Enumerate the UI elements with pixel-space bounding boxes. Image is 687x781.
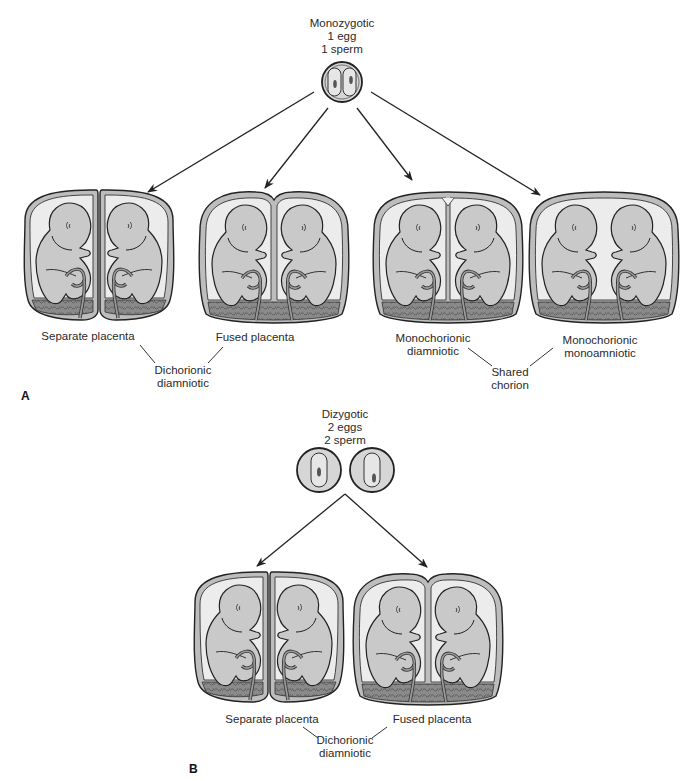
twin-separate-placenta-b — [194, 572, 344, 702]
monozygotic-label: Monozygotic 1 egg 1 sperm — [302, 17, 382, 56]
label-line: chorion — [480, 379, 540, 392]
separate-placenta-label-a: Separate placenta — [18, 330, 158, 343]
label-line: Separate placenta — [212, 713, 332, 726]
label-line: Dizygotic — [305, 408, 385, 421]
arrow-to-fused-placenta-b — [345, 494, 427, 567]
fused-placenta-label-a: Fused placenta — [200, 331, 310, 344]
fused-placenta-label-b: Fused placenta — [377, 713, 487, 726]
panel-a-arrows — [148, 92, 540, 195]
label-line: Fused placenta — [200, 331, 310, 344]
label-line: 2 eggs — [305, 421, 385, 434]
label-line: Separate placenta — [18, 330, 158, 343]
dichorionic-diamniotic-label-a: Dichorionic diamniotic — [148, 364, 218, 390]
sac-left — [24, 190, 98, 320]
sac-right — [100, 190, 174, 320]
monozygotic-zygote — [322, 62, 362, 102]
arrow-to-separate-placenta-b — [257, 494, 345, 566]
arrow-to-separate-placenta — [148, 92, 314, 192]
label-line: Monozygotic — [302, 17, 382, 30]
label-line: Dichorionic — [148, 364, 218, 377]
label-line: 2 sperm — [305, 434, 385, 447]
panel-b-arrows — [257, 494, 427, 567]
dichorionic-diamniotic-label-b: Dichorionic diamniotic — [310, 734, 380, 760]
label-line: 1 sperm — [302, 43, 382, 56]
twinning-diagram — [0, 0, 687, 781]
label-line: Fused placenta — [377, 713, 487, 726]
monochorionic-diamniotic-label: Monochorionic diamniotic — [388, 332, 478, 358]
twin-fused-placenta-b — [353, 574, 503, 705]
shared-chorion-label: Shared chorion — [480, 366, 540, 392]
label-line: Monochorionic — [550, 334, 650, 347]
panel-a-letter: A — [21, 389, 30, 403]
twin-monochorionic-diamniotic — [373, 192, 523, 323]
label-line: Shared — [480, 366, 540, 379]
dizygotic-zygotes — [297, 448, 394, 492]
arrow-to-fused-placenta — [265, 108, 328, 188]
label-line: diamniotic — [388, 345, 478, 358]
arrow-to-monochorionic-monoamniotic — [371, 92, 540, 195]
panel-a-connectors — [140, 345, 553, 366]
twin-monochorionic-monoamniotic — [529, 192, 679, 323]
twin-fused-placenta-a — [199, 192, 349, 323]
separate-placenta-label-b: Separate placenta — [212, 713, 332, 726]
label-line: Dichorionic — [310, 734, 380, 747]
panel-b-letter: B — [189, 762, 198, 776]
monochorionic-monoamniotic-label: Monochorionic monoamniotic — [550, 334, 650, 360]
dizygotic-label: Dizygotic 2 eggs 2 sperm — [305, 408, 385, 447]
label-line: 1 egg — [302, 30, 382, 43]
label-line: monoamniotic — [550, 347, 650, 360]
label-line: Monochorionic — [388, 332, 478, 345]
label-line: diamniotic — [148, 377, 218, 390]
arrow-to-monochorionic-diamniotic — [357, 108, 412, 180]
label-line: diamniotic — [310, 747, 380, 760]
twin-separate-placenta-a — [24, 190, 174, 320]
